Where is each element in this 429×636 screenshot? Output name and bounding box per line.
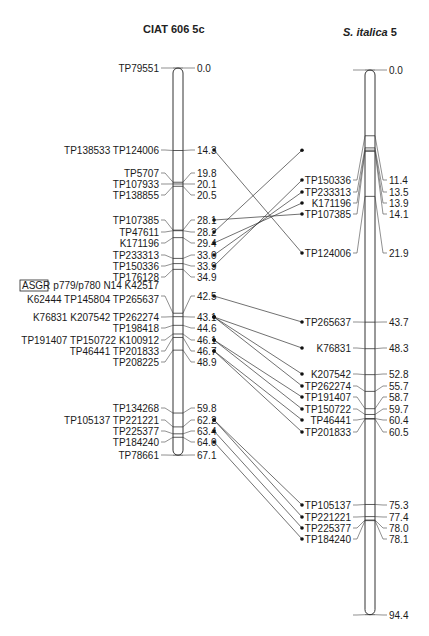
locus-name: K171196 [312,198,352,209]
locus-position: 58.7 [389,392,409,403]
locus-name: TP47611 [119,227,159,238]
locus-name: TP184240 [305,534,352,545]
locus-name: TP5707 [124,168,159,179]
locus-name: K171196 [120,238,160,249]
right-locus: TP23331313.5 [305,148,409,198]
right-chromosome: 0.0TP15033611.4TP23331313.5K17119613.9TP… [305,65,409,621]
locus-name: TP233313 [113,250,160,261]
left-locus: K62444 TP145804 TP265637p779/p780 N14 K4… [20,280,217,313]
right-locus: K20754252.8 [311,369,409,380]
locus-position: 20.1 [197,179,217,190]
connection-line [212,315,304,376]
right-locus: TP15033611.4 [305,136,408,186]
locus-name: TP138533 TP124006 [64,145,159,156]
left-locus: TP22537763.4 [113,426,217,437]
right-locus: TP26563743.7 [305,317,409,328]
locus-name: TP105137 [305,500,352,511]
connection-line [212,148,304,255]
locus-position: 55.7 [389,381,409,392]
locus-position: 77.4 [389,512,409,523]
locus-position: 11.4 [389,175,408,186]
connection-line [212,418,304,519]
locus-position: 78.0 [389,523,409,534]
locus-name: TP208225 [113,357,160,368]
locus-position: 59.8 [197,403,217,414]
connection-line [212,315,304,388]
locus-position: 60.4 [389,415,409,426]
locus-name: TP191407 [305,392,352,403]
locus-position: 34.9 [197,272,217,283]
connection-line [212,178,304,268]
locus-name: TP191407 TP150722 K100912 [21,335,159,346]
locus-name: TP46441 [310,415,351,426]
right-locus: TP4644160.4 [310,415,408,426]
locus-name: TP46441 TP201833 [70,346,160,357]
right-locus: K7683148.3 [317,343,409,354]
locus-name: TP138855 [113,190,160,201]
locus-position: 52.8 [389,369,409,380]
left-locus: TP15033633.9 [113,261,217,272]
right-locus: TP10513775.3 [305,500,409,511]
synteny-connections [212,148,304,541]
left-locus: TP10793320.1 [113,179,217,190]
locus-position: 75.3 [389,500,409,511]
right-locus: TP15072259.7 [305,404,409,415]
locus-name: TP105137 TP221221 [64,415,159,426]
locus-position: 13.9 [389,198,409,209]
locus-position: 0.0 [389,65,403,76]
locus-name: TP79551 [118,63,159,74]
locus-name: TP221221 [305,512,352,523]
right-locus: 94.4 [353,610,409,621]
locus-name: TP184240 [113,437,160,448]
locus-name: K76831 [317,343,352,354]
locus-position: 0.0 [197,63,211,74]
locus-name: TP150336 [305,175,352,186]
locus-name: p779/p780 N14 K42517 [53,280,159,291]
locus-position: 20.5 [197,190,217,201]
locus-name: TP107385 [305,209,352,220]
connection-line [212,440,304,541]
locus-position: 60.5 [389,427,409,438]
locus-name: TP134268 [113,403,160,414]
connection-line [212,429,304,530]
locus-position: 44.6 [197,323,217,334]
connection-line [212,349,304,422]
locus-name: K76831 K207542 TP262274 [33,312,159,323]
left-locus: TP795510.0 [118,63,211,74]
asgr-label: ASGR [22,280,50,291]
locus-name: TP107933 [113,179,160,190]
connection-line [212,315,304,350]
locus-name: TP150336 [113,261,160,272]
connection-line [212,212,304,222]
locus-name: TP233313 [305,187,352,198]
right-locus: TP22537778.0 [305,520,409,533]
locus-name: TP262274 [305,381,352,392]
locus-name: TP265637 [305,317,352,328]
locus-position: 14.1 [389,209,409,220]
locus-name: K62444 TP145804 TP265637 [27,294,159,305]
left-locus: TP7866167.1 [118,450,216,461]
locus-position: 48.3 [389,343,409,354]
locus-name: TP225377 [305,523,352,534]
right-locus: TP22122177.4 [305,512,409,523]
locus-position: 13.5 [389,187,409,198]
locus-name: TP150722 [305,404,352,415]
locus-position: 43.7 [389,317,409,328]
connection-line [212,349,304,434]
connection-line [212,190,304,257]
left-chromosome: TP795510.0TP138533 TP12400614.3TP570719.… [20,63,217,461]
left-locus: K17119629.4 [120,238,217,249]
left-locus: TP4761128.2 [119,227,217,238]
locus-position: 19.8 [197,168,217,179]
locus-name: TP198418 [113,323,160,334]
connection-line [212,148,304,233]
connection-line [212,294,304,324]
locus-position: 94.4 [389,610,409,621]
locus-position: 48.9 [197,357,217,368]
locus-name: TP78661 [118,450,159,461]
right-locus: TP26227455.7 [305,381,409,392]
left-locus: TP138533 TP12400614.3 [64,145,217,156]
locus-name: TP107385 [113,215,160,226]
locus-position: 67.1 [197,450,217,461]
connection-line [212,418,304,507]
